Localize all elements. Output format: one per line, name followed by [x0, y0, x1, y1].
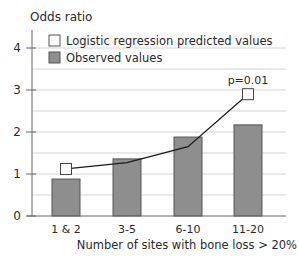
legend-predicted-label: Logistic regression predicted values — [66, 34, 273, 48]
annotations: p=0.01 — [228, 74, 269, 87]
y-axis-ticks: 01234 — [13, 41, 36, 223]
y-tick-label: 3 — [13, 83, 21, 97]
bar-1 & 2 — [52, 179, 80, 216]
legend-observed-swatch-icon — [49, 52, 60, 63]
x-tick-label: 3-5 — [118, 223, 136, 236]
x-tick-label: 6-10 — [176, 223, 201, 236]
legend-predicted-swatch-icon — [49, 35, 60, 46]
legend-observed-label: Observed values — [66, 51, 162, 65]
bar-3-5 — [113, 159, 141, 216]
observed-bars — [52, 125, 262, 216]
predicted-marker-icon — [243, 89, 254, 100]
y-tick-label: 0 — [13, 209, 21, 223]
y-axis-label: Odds ratio — [30, 10, 92, 24]
predicted-marker-icon — [61, 163, 72, 174]
y-tick-label: 2 — [13, 125, 21, 139]
legend: Logistic regression predicted values Obs… — [49, 34, 273, 65]
bar-11-20 — [234, 125, 262, 216]
y-tick-label: 1 — [13, 167, 21, 181]
x-tick-label: 11-20 — [232, 223, 264, 236]
x-axis-label: Number of sites with bone loss > 20% — [77, 238, 297, 252]
odds-ratio-chart: 01234 1 & 23-56-1011-20 p=0.01 Odds rati… — [0, 0, 299, 266]
x-tick-label: 1 & 2 — [51, 223, 81, 236]
p-value-annotation: p=0.01 — [228, 74, 269, 87]
x-axis-ticks: 1 & 23-56-1011-20 — [51, 223, 264, 236]
y-tick-label: 4 — [13, 41, 21, 55]
